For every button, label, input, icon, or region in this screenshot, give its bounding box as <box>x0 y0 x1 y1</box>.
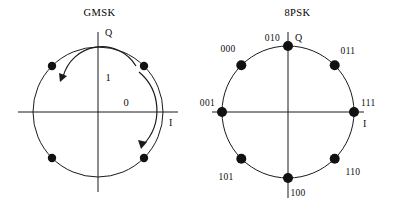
psk8-i-axis-label: I <box>363 118 366 129</box>
gmsk-q-axis-label: Q <box>105 27 113 38</box>
psk8-label-100: 100 <box>290 188 305 198</box>
psk8-label-011: 011 <box>341 46 356 56</box>
psk8-q-axis-label: Q <box>295 32 303 43</box>
psk8-label-000: 000 <box>220 44 235 54</box>
gmsk-i-axis-label: I <box>169 117 172 128</box>
psk8-label-001: 001 <box>200 98 215 108</box>
gmsk-bit-zero-arrow <box>139 72 157 145</box>
psk8-point-010 <box>283 41 293 51</box>
psk8-label-111: 111 <box>361 98 375 108</box>
psk8-point-110 <box>330 154 340 164</box>
gmsk-point-225 <box>48 154 56 162</box>
gmsk-bit-one-arrowhead <box>59 73 67 82</box>
gmsk-bit-one-label: 1 <box>105 72 110 83</box>
gmsk-point-45 <box>140 62 148 70</box>
psk8-point-001 <box>217 107 227 117</box>
psk8-plot: Q I 010 011 111 110 100 101 001 000 <box>198 0 397 220</box>
constellation-figure: GMSK Q I 1 0 <box>0 0 397 220</box>
psk8-point-011 <box>330 60 340 70</box>
psk8-point-111 <box>349 107 359 117</box>
gmsk-plot: Q I 1 0 <box>0 0 199 220</box>
psk8-point-101 <box>236 154 246 164</box>
psk8-point-100 <box>283 173 293 183</box>
psk8-label-010: 010 <box>265 33 280 43</box>
gmsk-bit-zero-label: 0 <box>123 97 128 108</box>
psk8-label-101: 101 <box>218 172 233 182</box>
gmsk-point-315 <box>140 154 148 162</box>
gmsk-point-135 <box>48 62 56 70</box>
psk8-panel: 8PSK Q I 010 011 111 110 100 <box>198 0 397 220</box>
gmsk-panel: GMSK Q I 1 0 <box>0 0 199 220</box>
psk8-label-110: 110 <box>346 167 361 177</box>
psk8-point-000 <box>236 60 246 70</box>
